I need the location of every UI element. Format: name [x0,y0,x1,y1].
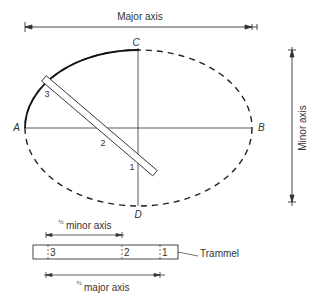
point-a-label: A [12,122,20,133]
minor-axis-dimension [288,47,296,206]
strip-mark-2: 2 [124,247,130,258]
half-major-axis-dimension [44,272,165,278]
half-fraction-minor: ½ [58,219,63,225]
half-minor-axis-label: minor axis [66,220,112,231]
trammel-on-ellipse [42,76,158,176]
trammel-strip [33,245,198,259]
half-major-axis-label: major axis [84,282,130,293]
ellipse-drawn-arc [25,50,139,128]
mark-3-label: 3 [44,89,49,99]
major-axis-label: Major axis [117,11,163,22]
mark-1-label: 1 [129,162,134,172]
strip-mark-3: 3 [50,247,56,258]
half-minor-axis-dimension [46,232,124,238]
ellipse-diagram: Major axis Minor axis C A B D 3 2 1 ½ mi… [0,0,320,308]
half-fraction-major: ½ [76,280,81,286]
mark-2-label: 2 [100,138,105,148]
point-d-label: D [134,209,141,220]
point-b-label: B [258,122,265,133]
point-c-label: C [132,37,140,48]
trammel-label: Trammel [200,248,239,259]
strip-mark-1: 1 [162,247,168,258]
major-axis-dimension [25,22,257,32]
minor-axis-label: Minor axis [297,105,308,151]
